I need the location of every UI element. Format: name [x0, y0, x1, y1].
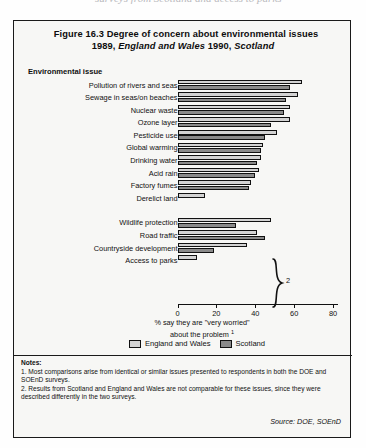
source-line: Source: DOE, SOEnD: [270, 417, 341, 426]
notes-heading: Notes:: [21, 359, 345, 368]
bar-category-label: Drinking water: [130, 155, 177, 166]
bar-row: Access to parks: [14, 255, 352, 268]
bar-row: Sewage in seas/on beaches: [14, 92, 352, 105]
bar-scotland: [178, 186, 250, 191]
notes-divider: [14, 355, 352, 356]
title-year-1990: 1990,: [205, 41, 234, 51]
group-spacer: [14, 205, 352, 217]
bar-row: Wildlife protection: [14, 217, 352, 230]
bar-england-wales: [178, 168, 260, 173]
bar-row: Derelict land: [14, 192, 352, 205]
x-axis-tick: [216, 305, 217, 308]
bar-scotland: [178, 85, 291, 90]
x-axis-tick-label: 0: [175, 309, 179, 318]
brace-label: 2: [286, 276, 290, 285]
x-axis: 020406080: [178, 304, 352, 305]
bar-category-label: Ozone layer: [138, 117, 178, 128]
bar-category-label: Pesticide use: [134, 130, 178, 141]
x-axis-tick-label: 20: [212, 309, 220, 318]
title-region-ew: England and Wales: [118, 41, 205, 51]
bar-row: Nuclear waste: [14, 104, 352, 117]
bar-scotland: [178, 148, 262, 153]
x-axis-title-line2: about the problem: [170, 330, 229, 339]
legend-swatch-sc: [220, 340, 232, 348]
figure-title-line2: 1989, England and Wales 1990, Scotland: [14, 40, 352, 52]
bar-category-label: Nuclear waste: [131, 105, 178, 116]
x-axis-title-line1: % say they are "very worried": [154, 318, 249, 327]
bar-category-label: Global warming: [126, 142, 177, 153]
bar-row: Countryside development: [14, 242, 352, 255]
x-axis-line: [178, 304, 338, 305]
bar-row: Factory fumes: [14, 180, 352, 193]
group-brace: 2: [269, 258, 295, 308]
bar-england-wales: [178, 218, 271, 223]
bar-category-label: Road traffic: [140, 230, 178, 241]
notes-block: Notes: 1. Most comparisons arise from id…: [21, 359, 345, 402]
cutoff-text: surveys from Scotland and access to park…: [95, 0, 282, 4]
bar-row: Road traffic: [14, 230, 352, 243]
bar-category-label: Wildlife protection: [119, 217, 177, 228]
bar-row: Pollution of rivers and seas: [14, 79, 352, 92]
bar-scotland: [178, 135, 265, 140]
x-axis-title-footnote: 1: [231, 329, 234, 335]
x-axis-tick: [333, 305, 334, 308]
bar-england-wales: [178, 117, 291, 122]
x-axis-tick: [178, 305, 179, 308]
bar-england-wales: [178, 155, 262, 160]
title-year-1989: 1989,: [92, 41, 118, 51]
bar-england-wales: [178, 243, 248, 248]
legend-label-ew: England and Wales: [145, 339, 211, 348]
bar-row: Global warming: [14, 142, 352, 155]
bar-england-wales: [178, 105, 291, 110]
bar-england-wales: [178, 92, 299, 97]
bar-category-label: Access to parks: [125, 255, 177, 266]
title-region-scotland: Scotland: [234, 41, 274, 51]
bar-england-wales: [178, 130, 277, 135]
x-axis-tick-label: 80: [329, 309, 337, 318]
bar-england-wales: [178, 80, 302, 85]
bar-scotland: [178, 173, 256, 178]
brace-icon: [269, 258, 295, 308]
bar-scotland: [178, 110, 285, 115]
bar-category-label: Derelict land: [136, 193, 177, 204]
page-top-cutoff-text: surveys from Scotland and access to park…: [0, 0, 366, 13]
legend-label-sc: Scotland: [236, 339, 266, 348]
bar-england-wales: [178, 180, 252, 185]
bar-scotland: [178, 248, 215, 253]
x-axis-tick-label: 40: [251, 309, 259, 318]
category-axis-header: Environmental issue: [28, 67, 102, 76]
bar-category-label: Sewage in seas/on beaches: [85, 92, 177, 103]
bar-scotland: [178, 123, 271, 128]
x-axis-title: % say they are "very worried" about the …: [14, 318, 352, 339]
legend-item-sc: Scotland: [220, 339, 266, 348]
bar-scotland: [178, 223, 236, 228]
bar-category-label: Acid rain: [149, 168, 178, 179]
bar-england-wales: [178, 143, 264, 148]
bar-category-label: Factory fumes: [131, 180, 178, 191]
bar-chart-plot: Pollution of rivers and seasSewage in se…: [14, 79, 352, 304]
note-1: 1. Most comparisons arise from identical…: [21, 368, 345, 385]
bar-england-wales: [178, 255, 197, 260]
bar-row: Acid rain: [14, 167, 352, 180]
legend-swatch-ew: [129, 340, 141, 348]
legend-item-ew: England and Wales: [129, 339, 211, 348]
chart-legend: England and WalesScotland: [14, 339, 352, 348]
figure-title: Figure 16.3 Degree of concern about envi…: [14, 28, 352, 52]
bar-scotland: [178, 161, 258, 166]
note-2: 2. Results from Scotland and England and…: [21, 385, 345, 402]
bar-row: Drinking water: [14, 155, 352, 168]
bar-scotland: [178, 236, 265, 241]
bar-row: Pesticide use: [14, 129, 352, 142]
bar-category-label: Countryside development: [94, 243, 178, 254]
x-axis-tick-label: 60: [290, 309, 298, 318]
figure-title-line1: Figure 16.3 Degree of concern about envi…: [14, 28, 352, 40]
x-axis-tick: [255, 305, 256, 308]
bar-england-wales: [178, 230, 258, 235]
bar-scotland: [178, 98, 287, 103]
figure-container: Figure 16.3 Degree of concern about envi…: [13, 20, 351, 438]
bar-row: Ozone layer: [14, 117, 352, 130]
bar-category-label: Pollution of rivers and seas: [89, 80, 178, 91]
bar-england-wales: [178, 193, 205, 198]
